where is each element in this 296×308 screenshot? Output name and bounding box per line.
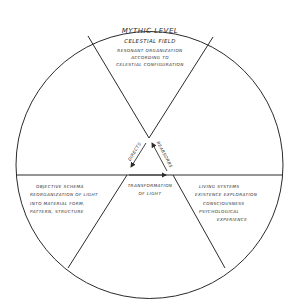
left-line-1: OBJECTIVE SCHEMA	[30, 184, 110, 189]
center-line-2: OF LIGHT	[122, 191, 178, 196]
top-line-3: CELESTIAL CONFIGURATION	[100, 62, 200, 67]
right-line-5: EXPERIENCE	[195, 217, 275, 222]
right-line-3: CONSCIOUSNESS	[195, 201, 275, 206]
center-sector-text: TRANSFORMATION OF LIGHT	[122, 183, 178, 197]
right-line-4: PSYCHOLOGICAL	[195, 209, 275, 214]
left-line-3: INTO MATERIAL FORM,	[30, 201, 110, 206]
top-line-1: RESONANT ORGANIZATION	[100, 48, 200, 53]
left-sector-text: OBJECTIVE SCHEMA REORGANIZATION OF LIGHT…	[30, 184, 110, 214]
top-sector-text: MYTHIC LEVEL CELESTIAL FIELD RESONANT OR…	[100, 27, 200, 67]
right-line-2: EXISTENCE EXPLORATION	[195, 192, 275, 197]
left-line-2: REORGANIZATION OF LIGHT	[30, 192, 110, 197]
left-line-4: PATTERN, STRUCTURE	[30, 209, 110, 214]
right-line-1: LIVING SYSTEMS	[195, 184, 275, 189]
top-line-2: ACCORDING TO	[100, 55, 200, 60]
right-sector-text: LIVING SYSTEMS EXISTENCE EXPLORATION CON…	[195, 184, 275, 222]
mythic-level-title: MYTHIC LEVEL	[100, 27, 200, 36]
celestial-field-subtitle: CELESTIAL FIELD	[100, 38, 200, 45]
outer-circle	[16, 32, 283, 299]
center-line-1: TRANSFORMATION	[122, 183, 178, 188]
